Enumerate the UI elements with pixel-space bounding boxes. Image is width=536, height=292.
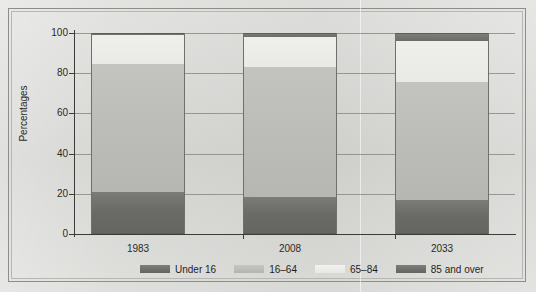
y-tick-label: 80 [32, 68, 68, 78]
y-tick-mark [69, 33, 74, 34]
chart-legend: Under 1616–6465–8485 and over [140, 262, 502, 276]
bar-segment-16-64-1983 [92, 64, 184, 192]
legend-item-1: 16–64 [234, 264, 297, 275]
y-tick-label: 40 [32, 149, 68, 159]
bar-segment-under-16-2033 [396, 200, 488, 234]
chart-figure: Percentages 100806040200 198320082033 Un… [0, 0, 536, 292]
bar-2033 [395, 33, 489, 234]
bar-segment-65-84-2033 [396, 41, 488, 82]
y-tick-mark [69, 154, 74, 155]
bar-segment-65-84-2008 [244, 37, 336, 67]
legend-swatch-icon [396, 265, 426, 273]
legend-swatch-icon [140, 265, 170, 273]
y-tick-mark [69, 73, 74, 74]
bar-top-edge [244, 33, 336, 34]
plot-area [75, 33, 515, 234]
x-tick-label-2033: 2033 [382, 243, 502, 254]
bar-segment-16-64-2008 [244, 67, 336, 197]
bar-bottom-edge [92, 233, 184, 234]
legend-label: 65–84 [350, 264, 378, 275]
y-tick-mark [69, 234, 74, 235]
x-tick-mark [395, 234, 396, 239]
y-tick-mark [69, 113, 74, 114]
x-tick-label-2008: 2008 [230, 243, 350, 254]
bar-segment-16-64-2033 [396, 82, 488, 200]
y-tick-label: 60 [32, 108, 68, 118]
legend-label: 85 and over [431, 264, 484, 275]
x-axis-line [74, 234, 516, 235]
bar-segment-under-16-2008 [244, 197, 336, 234]
y-tick-label: 0 [32, 229, 68, 239]
bar-segment-under-16-1983 [92, 192, 184, 234]
bar-2008 [243, 33, 337, 234]
legend-item-3: 85 and over [396, 264, 484, 275]
legend-swatch-icon [315, 265, 345, 273]
bar-segment-65-84-1983 [92, 35, 184, 64]
bar-bottom-edge [244, 233, 336, 234]
bar-top-edge [396, 33, 488, 34]
x-tick-mark [243, 234, 244, 239]
legend-item-2: 65–84 [315, 264, 378, 275]
legend-item-0: Under 16 [140, 264, 216, 275]
y-tick-mark [69, 194, 74, 195]
legend-label: 16–64 [269, 264, 297, 275]
x-tick-label-1983: 1983 [78, 243, 198, 254]
bar-bottom-edge [396, 233, 488, 234]
legend-label: Under 16 [175, 264, 216, 275]
bar-top-edge [92, 33, 184, 34]
legend-swatch-icon [234, 265, 264, 273]
y-tick-label-group: 100806040200 [24, 0, 68, 292]
y-tick-label: 100 [32, 28, 68, 38]
bar-segment-85-and-over-2033 [396, 33, 488, 41]
bar-1983 [91, 33, 185, 234]
y-tick-label: 20 [32, 189, 68, 199]
